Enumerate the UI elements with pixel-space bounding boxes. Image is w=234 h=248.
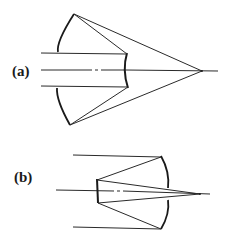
panel-b: (b) xyxy=(14,155,210,229)
beam-lower-line xyxy=(73,227,161,229)
panel-a: (a) xyxy=(12,14,218,125)
ray-primary-top-to-secondary xyxy=(97,157,161,180)
primary-mirror-lower xyxy=(57,88,70,125)
ray-primary-top-to-focus xyxy=(74,14,202,71)
primary-mirror-upper xyxy=(58,14,74,52)
secondary-mirror xyxy=(97,179,98,203)
beam-lower-line xyxy=(41,86,127,87)
panel-a-label: (a) xyxy=(12,63,30,80)
ray-primary-bottom-to-secondary xyxy=(98,203,161,229)
primary-mirror-upper xyxy=(161,156,168,188)
optical-axis-outside xyxy=(126,70,218,71)
primary-mirror-lower xyxy=(161,200,168,229)
focal-point-b xyxy=(199,193,201,195)
ray-secondary-to-primary-bottom xyxy=(70,87,128,125)
ray-primary-bottom-to-focus xyxy=(70,71,202,125)
panel-b-label: (b) xyxy=(14,169,32,186)
optical-diagram: (a) (b) xyxy=(0,0,234,248)
focal-point-a xyxy=(201,70,203,72)
ray-secondary-bottom-to-focus xyxy=(98,194,200,203)
beam-upper-line xyxy=(41,53,126,54)
beam-upper-line xyxy=(73,155,161,157)
